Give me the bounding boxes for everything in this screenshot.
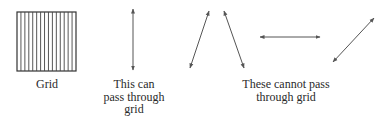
double-arrow-icon-diagonal-up bbox=[333, 18, 374, 62]
grid-label: Grid bbox=[36, 78, 58, 91]
pass-label-line-1: This can bbox=[104, 78, 165, 91]
grid-box bbox=[17, 12, 76, 71]
grid-label-text: Grid bbox=[36, 77, 58, 91]
double-arrow-icon-diagonal-right bbox=[224, 11, 244, 68]
pass-label-line-3: grid bbox=[104, 103, 165, 116]
arrows bbox=[133, 9, 374, 70]
blocked-label-line-2: through grid bbox=[242, 91, 329, 104]
double-arrow-icon-diagonal-left-a bbox=[190, 11, 209, 68]
blocked-label: These cannot pass through grid bbox=[242, 78, 329, 103]
blocked-label-line-1: These cannot pass bbox=[242, 78, 329, 91]
pass-label: This can pass through grid bbox=[104, 78, 165, 116]
grid-icon bbox=[17, 12, 76, 71]
